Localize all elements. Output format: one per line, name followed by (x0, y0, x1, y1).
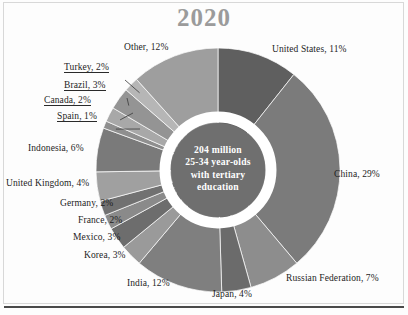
slice-label-spain: Spain, 1% (57, 111, 97, 122)
center-caption-line-2: 25-34 year-olds (163, 156, 273, 168)
slice-label-france: France, 2% (78, 215, 122, 225)
slice-label-russian-federation: Russian Federation, 7% (286, 273, 379, 283)
slice-label-brazil: Brazil, 3% (64, 80, 106, 91)
slice-label-mexico: Mexico, 3% (73, 232, 120, 242)
chart-figure: 2020 204 million 25-34 year-olds with te… (0, 0, 408, 315)
slice-label-japan: Japan, 4% (212, 289, 252, 299)
slice-label-india: India, 12% (127, 278, 170, 288)
slice-label-other: Other, 12% (124, 42, 168, 52)
slice-label-china: China, 29% (334, 169, 380, 179)
center-caption-line-4: education (163, 181, 273, 193)
slice-label-canada: Canada, 2% (44, 95, 91, 106)
center-caption-line-3: with tertiary (163, 169, 273, 181)
slice-label-germany: Germany, 2% (60, 198, 113, 208)
center-caption-line-1: 204 million (163, 144, 273, 156)
slice-label-united-states: United States, 11% (272, 44, 347, 54)
slice-label-indonesia: Indonesia, 6% (28, 143, 84, 153)
slice-label-united-kingdom: United Kingdom, 4% (6, 178, 89, 188)
slice-label-korea: Korea, 3% (84, 250, 126, 260)
center-caption: 204 million 25-34 year-olds with tertiar… (163, 144, 273, 194)
bottom-rule (4, 306, 404, 308)
slice-label-turkey: Turkey, 2% (64, 62, 109, 73)
